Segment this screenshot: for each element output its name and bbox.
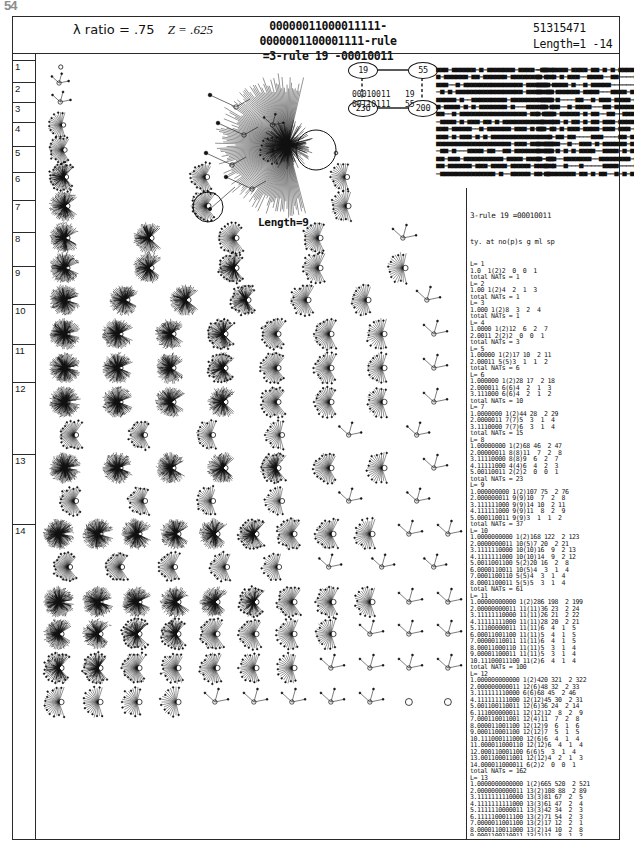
basin-of-attraction[interactable] [413, 350, 449, 386]
basin-of-attraction[interactable] [202, 350, 238, 386]
basin-of-attraction[interactable] [225, 282, 261, 318]
basin-of-attraction[interactable] [345, 282, 381, 318]
basin-of-attraction[interactable] [382, 250, 418, 286]
basin-of-attraction[interactable] [309, 550, 343, 584]
basin-of-attraction[interactable] [427, 650, 463, 686]
basin-of-attraction[interactable] [150, 450, 186, 486]
basin-of-attraction[interactable] [406, 282, 442, 318]
basin-of-attraction[interactable] [271, 516, 307, 552]
basin-of-attraction[interactable] [255, 450, 291, 486]
basin-of-attraction[interactable] [128, 250, 164, 286]
basin-of-attraction[interactable] [257, 550, 291, 584]
basin-of-attraction[interactable] [362, 550, 396, 584]
basin-of-attraction[interactable] [194, 650, 230, 686]
basin-of-attraction[interactable] [260, 418, 294, 452]
basin-of-attraction[interactable] [44, 316, 80, 352]
basin-of-attraction[interactable] [185, 188, 221, 224]
basin-of-attraction[interactable] [388, 650, 424, 686]
basin-of-attraction[interactable] [38, 650, 74, 686]
basin-of-attraction[interactable] [361, 350, 397, 386]
basin-of-attraction[interactable] [155, 684, 191, 720]
basin-of-attraction[interactable] [308, 450, 344, 486]
basin-of-attraction[interactable] [310, 616, 346, 652]
basin-of-attraction[interactable] [38, 584, 74, 620]
basin-of-attraction[interactable] [297, 250, 333, 286]
basin-of-attraction[interactable] [97, 384, 133, 420]
basin-of-attraction[interactable] [260, 484, 294, 518]
basin-of-attraction[interactable] [100, 550, 134, 584]
basin-of-attraction[interactable] [123, 484, 157, 518]
basin-of-attraction[interactable] [38, 616, 74, 652]
basin-of-attraction[interactable] [388, 616, 424, 652]
basin-of-attraction[interactable] [255, 384, 291, 420]
basin-of-attraction[interactable] [361, 450, 397, 486]
basin-of-attraction[interactable] [77, 516, 113, 552]
basin-of-attraction[interactable] [233, 650, 269, 686]
basin-of-attraction[interactable] [116, 650, 152, 686]
basin-of-attraction[interactable] [427, 516, 463, 552]
basin-of-attraction[interactable] [397, 484, 431, 518]
basin-of-attraction[interactable] [116, 616, 152, 652]
basin-of-attraction[interactable] [414, 550, 448, 584]
basin-of-attraction[interactable] [361, 384, 397, 420]
basin-of-attraction[interactable] [77, 616, 113, 652]
basin-of-attraction[interactable] [413, 384, 449, 420]
basin-of-attraction[interactable] [310, 584, 346, 620]
basin-of-attraction[interactable] [48, 550, 82, 584]
basin-of-attraction[interactable] [329, 418, 363, 452]
basin-of-attraction[interactable] [349, 584, 385, 620]
basin-of-attraction[interactable] [397, 418, 431, 452]
basin-of-attraction[interactable] [427, 584, 463, 620]
basin-of-attraction[interactable] [44, 384, 80, 420]
basin-of-attraction[interactable] [44, 188, 80, 224]
basin-of-attraction[interactable] [150, 350, 186, 386]
basin-of-attraction[interactable] [255, 350, 291, 386]
basin-of-attraction[interactable] [54, 418, 88, 452]
basin-of-attraction[interactable] [285, 282, 321, 318]
basin-of-attraction[interactable] [349, 616, 385, 652]
basin-of-attraction[interactable] [38, 684, 74, 720]
basin-of-attraction[interactable] [155, 616, 191, 652]
basin-of-attraction[interactable] [388, 516, 424, 552]
basin-of-attraction[interactable] [150, 316, 186, 352]
basin-of-attraction[interactable] [44, 350, 80, 386]
basin-of-attraction[interactable] [104, 282, 140, 318]
basin-of-attraction[interactable] [310, 516, 346, 552]
basin-of-attraction[interactable] [155, 650, 191, 686]
basin-of-attraction[interactable] [205, 550, 239, 584]
basin-of-attraction[interactable] [310, 684, 346, 720]
basin-of-attraction[interactable] [213, 250, 249, 286]
basin-of-attraction[interactable] [329, 484, 363, 518]
basin-of-attraction[interactable] [413, 316, 449, 352]
basin-of-attraction[interactable] [97, 316, 133, 352]
basin-of-attraction[interactable] [116, 516, 152, 552]
basin-of-attraction[interactable] [413, 450, 449, 486]
basin-of-attraction[interactable] [310, 650, 346, 686]
basin-of-attraction[interactable] [308, 384, 344, 420]
basin-of-attraction[interactable] [155, 584, 191, 620]
basin-of-attraction[interactable] [233, 616, 269, 652]
basin-of-attraction[interactable] [349, 650, 385, 686]
basin-of-attraction[interactable] [427, 616, 463, 652]
basin-of-attraction[interactable] [194, 684, 230, 720]
basin-of-attraction[interactable] [44, 282, 80, 318]
basin-of-attraction[interactable] [325, 188, 361, 224]
basin-of-attraction[interactable] [271, 584, 307, 620]
basin-of-attraction[interactable] [44, 450, 80, 486]
basin-of-attraction[interactable] [202, 384, 238, 420]
basin-of-attraction[interactable] [349, 516, 385, 552]
basin-of-attraction[interactable] [255, 134, 287, 166]
basin-of-attraction[interactable] [233, 516, 269, 552]
basin-of-attraction[interactable] [77, 684, 113, 720]
basin-of-attraction[interactable] [233, 684, 269, 720]
basin-of-attraction[interactable] [271, 684, 307, 720]
basin-of-attraction[interactable] [123, 418, 157, 452]
basin-of-attraction[interactable] [255, 316, 291, 352]
basin-of-attraction[interactable] [77, 584, 113, 620]
basin-of-attraction[interactable] [202, 316, 238, 352]
basin-of-attraction[interactable] [153, 550, 187, 584]
basin-of-attraction[interactable] [116, 684, 152, 720]
basin-of-attraction[interactable] [233, 584, 269, 620]
basin-of-attraction[interactable] [308, 350, 344, 386]
basin-of-attraction[interactable] [77, 650, 113, 686]
